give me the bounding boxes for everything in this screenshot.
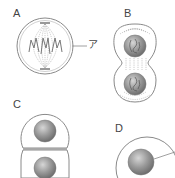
- panel-a-cell: [17, 18, 87, 74]
- panel-d-label: D: [115, 123, 123, 134]
- panel-c-label: C: [13, 99, 21, 110]
- panel-d-cell: [116, 137, 175, 178]
- panel-b-cell: [114, 24, 156, 102]
- panel-b-label: B: [124, 8, 131, 19]
- pointer-label-a: ア: [88, 40, 98, 50]
- cell-division-diagram: A ア B C D: [0, 0, 175, 178]
- panel-a-label: A: [13, 8, 20, 19]
- diagram-canvas: [0, 0, 175, 178]
- panel-c-cells: [21, 114, 69, 178]
